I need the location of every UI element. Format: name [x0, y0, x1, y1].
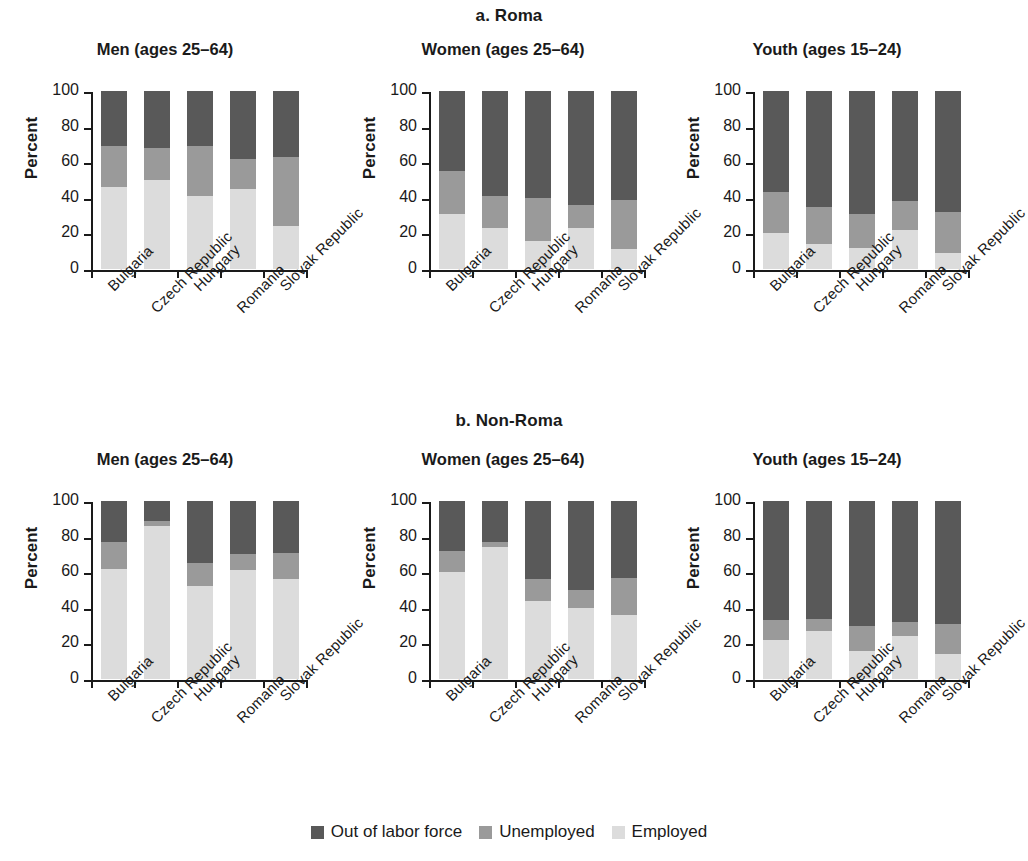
bar-segment — [763, 620, 789, 640]
y-axis-tick: 100 — [422, 502, 430, 504]
y-axis-tick: 100 — [746, 502, 754, 504]
stacked-bar — [935, 501, 961, 679]
y-axis-tick-label: 0 — [377, 259, 417, 277]
legend-label: Employed — [632, 822, 708, 842]
stacked-bar — [101, 91, 127, 269]
bar-segment — [187, 501, 213, 563]
legend-item: Out of labor force — [311, 822, 462, 842]
bar-segment — [101, 146, 127, 187]
stacked-bar — [806, 91, 832, 269]
plot-area: 020406080100 — [92, 502, 307, 680]
stacked-bar — [273, 501, 299, 679]
chart-heading: Youth (ages 15–24) — [662, 40, 992, 59]
stacked-bar — [439, 91, 465, 269]
y-axis-tick: 20 — [422, 644, 430, 646]
legend-swatch-icon — [311, 826, 324, 839]
y-axis-tick-label: 60 — [701, 152, 741, 170]
legend-label: Out of labor force — [331, 822, 462, 842]
stacked-bar — [144, 501, 170, 679]
bar-segment — [763, 501, 789, 620]
y-axis-tick-label: 100 — [701, 81, 741, 99]
chart-panel-0-0: Men (ages 25–64)Percent020406080100Bulga… — [0, 38, 340, 398]
bar-segment — [101, 542, 127, 569]
x-axis-labels: BulgariaCzech RepublicHungaryRomaniaSlov… — [754, 686, 984, 796]
bar-segment — [439, 91, 465, 171]
bar-segment — [611, 91, 637, 200]
y-axis-tick-label: 20 — [377, 633, 417, 651]
y-axis-tick-label: 60 — [377, 562, 417, 580]
bar-segment — [806, 91, 832, 207]
bar-segment — [763, 192, 789, 233]
bar-segment — [439, 214, 465, 269]
y-axis-tick-label: 60 — [39, 152, 79, 170]
bar-segment — [439, 171, 465, 214]
y-axis-tick-label: 80 — [701, 117, 741, 135]
bar-segment — [849, 91, 875, 214]
plot-area: 020406080100 — [754, 92, 969, 270]
bar-segment — [230, 501, 256, 554]
y-axis-tick: 100 — [84, 92, 92, 94]
bar-segment — [935, 624, 961, 654]
stacked-bar — [611, 501, 637, 679]
y-axis-tick: 20 — [746, 644, 754, 646]
y-axis-tick: 40 — [422, 609, 430, 611]
bar-segment — [101, 187, 127, 269]
bar-segment — [763, 91, 789, 192]
y-axis-tick-label: 40 — [377, 598, 417, 616]
y-axis-tick: 100 — [84, 502, 92, 504]
x-axis-labels: BulgariaCzech RepublicHungaryRomaniaSlov… — [430, 686, 660, 796]
y-axis-line — [753, 502, 755, 681]
bar-segment — [568, 91, 594, 205]
stacked-bar — [273, 91, 299, 269]
y-axis-tick-label: 40 — [39, 598, 79, 616]
y-axis-tick: 80 — [422, 128, 430, 130]
stacked-bar — [763, 501, 789, 679]
y-axis-tick-label: 0 — [39, 259, 79, 277]
y-axis-tick-label: 20 — [377, 223, 417, 241]
chart-panel-1-0: Men (ages 25–64)Percent020406080100Bulga… — [0, 448, 340, 808]
y-axis-tick-label: 0 — [39, 669, 79, 687]
y-axis-tick: 60 — [746, 163, 754, 165]
bar-segment — [568, 590, 594, 608]
y-axis-tick-label: 100 — [701, 491, 741, 509]
bar-segment — [935, 501, 961, 624]
bar-segment — [525, 501, 551, 579]
bar-segment — [101, 501, 127, 542]
panel-b-title: b. Non-Roma — [0, 411, 1018, 431]
bar-segment — [187, 91, 213, 146]
bar-segment — [892, 91, 918, 201]
chart-panel-0-2: Youth (ages 15–24)Percent020406080100Bul… — [662, 38, 1002, 398]
bar-segment — [482, 91, 508, 196]
y-axis-tick-label: 60 — [39, 562, 79, 580]
bar-segment — [568, 205, 594, 228]
y-axis-tick: 40 — [746, 199, 754, 201]
chart-panel-0-1: Women (ages 25–64)Percent020406080100Bul… — [338, 38, 678, 398]
chart-heading: Men (ages 25–64) — [0, 450, 330, 469]
bar-segment — [230, 91, 256, 159]
y-axis-tick: 60 — [84, 573, 92, 575]
bar-segment — [935, 91, 961, 212]
bar-segment — [611, 578, 637, 615]
x-axis-labels: BulgariaCzech RepublicHungaryRomaniaSlov… — [754, 276, 984, 386]
y-axis-tick-label: 40 — [701, 598, 741, 616]
bar-segment — [187, 146, 213, 196]
y-axis-tick-label: 80 — [39, 527, 79, 545]
legend-label: Unemployed — [499, 822, 594, 842]
y-axis-tick: 80 — [746, 128, 754, 130]
chart-heading: Men (ages 25–64) — [0, 40, 330, 59]
x-axis-labels: BulgariaCzech RepublicHungaryRomaniaSlov… — [430, 276, 660, 386]
y-axis-line — [753, 92, 755, 271]
chart-heading: Women (ages 25–64) — [338, 450, 668, 469]
bar-segment — [144, 501, 170, 521]
y-axis-tick: 60 — [422, 573, 430, 575]
bar-segment — [806, 619, 832, 631]
y-axis-tick: 60 — [422, 163, 430, 165]
y-axis-tick: 40 — [422, 199, 430, 201]
y-axis-tick-label: 40 — [39, 188, 79, 206]
bar-segment — [806, 207, 832, 244]
y-axis-tick-label: 0 — [377, 669, 417, 687]
bar-segment — [892, 501, 918, 622]
y-axis-tick-label: 100 — [377, 491, 417, 509]
y-axis-tick-label: 80 — [377, 117, 417, 135]
bar-segment — [611, 615, 637, 679]
